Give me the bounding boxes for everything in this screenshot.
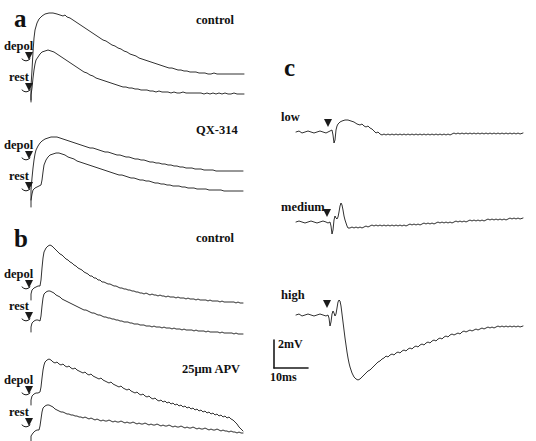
stim-marker-c-high xyxy=(323,300,331,308)
stim-marker-c-low xyxy=(324,119,332,127)
scale-bar-time-label: 10ms xyxy=(270,371,297,383)
trace-label-b-control-depol: depol xyxy=(4,268,33,281)
trace-label-b-apv-rest: rest xyxy=(9,406,29,419)
trace-b-control-rest xyxy=(31,291,243,334)
trace-label-a-qx314-depol: depol xyxy=(4,139,33,152)
trace-c-medium xyxy=(296,203,523,234)
condition-label-b-control: control xyxy=(196,232,234,245)
trace-label-b-control-rest: rest xyxy=(9,300,29,313)
condition-label-b-apv: 25μm APV xyxy=(182,363,240,376)
trace-a-qx314-depol xyxy=(31,137,243,200)
scale-bar-voltage-label: 2mV xyxy=(278,338,303,350)
stim-marker-b-apv-depol xyxy=(25,386,33,394)
trace-a-qx314-rest xyxy=(31,153,243,207)
trace-b-apv-rest xyxy=(31,405,243,441)
trace-label-a-control-rest: rest xyxy=(9,71,29,84)
condition-label-a-qx314: QX-314 xyxy=(196,124,238,137)
figure-canvas: a control depol rest QX-314 depol rest b… xyxy=(0,0,536,441)
panel-letter-a: a xyxy=(14,6,27,31)
trace-label-a-control-depol: depol xyxy=(4,40,33,53)
panel-letter-c: c xyxy=(284,55,295,80)
condition-label-a-control: control xyxy=(196,14,234,27)
trace-c-low xyxy=(296,120,523,143)
trace-label-a-qx314-rest: rest xyxy=(9,170,29,183)
trace-label-b-apv-depol: depol xyxy=(4,374,33,387)
trace-plot-svg xyxy=(0,0,536,441)
panel-letter-b: b xyxy=(14,226,28,251)
stim-marker-b-control-depol xyxy=(25,280,33,288)
trace-label-c-high: high xyxy=(281,289,305,302)
stim-marker-a-qx314-rest xyxy=(25,182,33,190)
stim-marker-a-qx314-depol xyxy=(25,151,33,159)
trace-label-c-low: low xyxy=(281,111,300,124)
trace-c-high xyxy=(296,300,523,380)
trace-label-c-medium: medium xyxy=(281,201,325,214)
trace-a-control-rest xyxy=(31,50,244,102)
stim-marker-b-apv-rest xyxy=(25,418,33,426)
stim-marker-a-control-depol xyxy=(25,52,33,60)
stim-marker-b-control-rest xyxy=(25,312,33,320)
trace-b-control-depol xyxy=(31,245,243,303)
